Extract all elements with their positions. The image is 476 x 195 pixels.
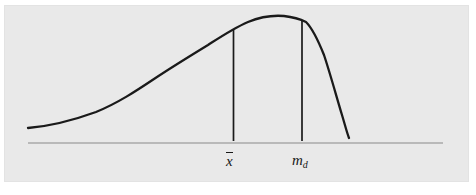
median-symbol: m — [292, 152, 303, 168]
mean-symbol-overbar: x — [226, 152, 233, 169]
median-label: md — [292, 153, 308, 170]
mean-label: x — [226, 152, 233, 169]
figure-root: x md — [0, 0, 476, 195]
median-subscript: d — [303, 159, 308, 170]
figure-panel — [5, 6, 468, 181]
